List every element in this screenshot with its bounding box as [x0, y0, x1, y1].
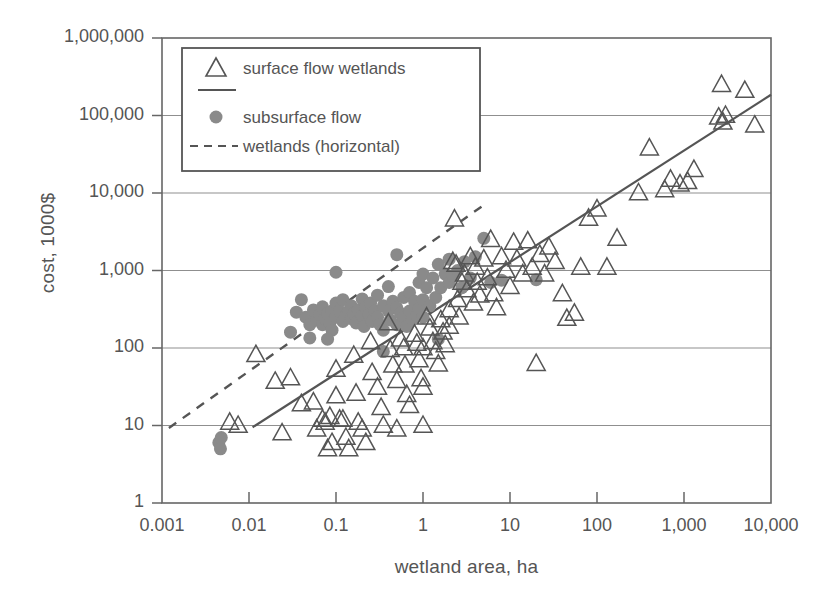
- x-axis-ticks: [249, 492, 684, 503]
- data-point-triangle: [746, 116, 764, 132]
- data-point-triangle: [340, 439, 358, 455]
- data-point-triangle: [608, 229, 626, 245]
- data-point-triangle: [410, 351, 428, 367]
- data-point-circle: [303, 331, 316, 344]
- data-point-triangle: [685, 160, 703, 176]
- data-point-triangle: [363, 363, 381, 379]
- legend-label-1: subsurface flow: [243, 108, 362, 127]
- data-point-triangle: [629, 184, 647, 200]
- data-point-triangle: [661, 170, 679, 186]
- data-point-circle: [284, 326, 297, 339]
- data-point-triangle: [640, 139, 658, 155]
- data-point-triangle: [553, 284, 571, 300]
- data-point-triangle: [384, 356, 402, 372]
- y-tick-label: 10,000: [14, 181, 144, 202]
- chart-legend: surface flow wetlands subsurface flow we…: [182, 48, 480, 171]
- data-point-triangle: [527, 354, 545, 370]
- y-tick-label: 100: [14, 336, 144, 357]
- legend-label-0: surface flow wetlands: [243, 59, 406, 78]
- y-tick-label: 1,000,000: [14, 26, 144, 47]
- data-point-triangle: [400, 396, 418, 412]
- data-point-triangle: [353, 420, 371, 436]
- data-point-circle: [215, 431, 228, 444]
- data-point-triangle: [713, 75, 731, 91]
- data-point-triangle: [327, 387, 345, 403]
- data-point-triangle: [514, 265, 532, 281]
- x-tick-label: 10,000: [716, 515, 823, 536]
- data-point-triangle: [656, 180, 674, 196]
- y-tick-label: 1: [14, 491, 144, 512]
- data-point-circle: [382, 280, 395, 293]
- data-point-triangle: [281, 369, 299, 385]
- data-point-triangle: [679, 172, 697, 188]
- data-point-triangle: [372, 398, 390, 414]
- y-tick-label: 10: [14, 414, 144, 435]
- data-point-circle: [330, 266, 343, 279]
- data-point-triangle: [414, 416, 432, 432]
- data-point-circle: [321, 333, 334, 346]
- legend-label-2: wetlands (horizontal): [242, 137, 400, 156]
- data-point-triangle: [229, 416, 247, 432]
- data-point-triangle: [572, 258, 590, 274]
- data-point-triangle: [266, 372, 284, 388]
- y-axis-ticks: [152, 38, 162, 503]
- data-point-circle: [390, 248, 403, 261]
- data-point-circle: [214, 442, 227, 455]
- y-tick-label: 100,000: [14, 104, 144, 125]
- legend-circle-icon: [210, 111, 223, 124]
- data-point-triangle: [374, 416, 392, 432]
- data-point-triangle: [736, 81, 754, 97]
- data-point-triangle: [388, 371, 406, 387]
- data-point-triangle: [445, 210, 463, 226]
- data-point-circle: [295, 293, 308, 306]
- data-point-triangle: [368, 378, 386, 394]
- data-point-triangle: [347, 384, 365, 400]
- data-point-triangle: [412, 369, 430, 385]
- chart-figure: cost, 1000$ wetland area, ha surface flo…: [0, 0, 823, 600]
- y-tick-label: 1,000: [14, 259, 144, 280]
- data-point-triangle: [598, 258, 616, 274]
- data-point-triangle: [304, 393, 322, 409]
